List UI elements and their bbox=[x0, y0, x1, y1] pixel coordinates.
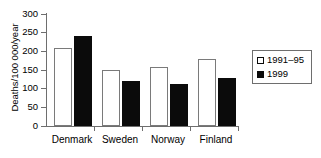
legend-item-1991-95: 1991–95 bbox=[257, 54, 307, 66]
x-axis-category-denmark: Denmark bbox=[44, 134, 100, 146]
x-axis-separator-tick-2 bbox=[142, 127, 143, 131]
bar-sweden-1999 bbox=[122, 81, 140, 126]
legend-label-1991-95: 1991–95 bbox=[267, 55, 304, 65]
bar-norway-1991-95 bbox=[150, 67, 168, 126]
bar-chart-figure: Deaths/100 000/year 300 250 200 150 100 … bbox=[0, 0, 321, 158]
y-axis-tick-250 bbox=[41, 32, 46, 33]
filled-square-swatch-icon bbox=[257, 71, 264, 78]
y-axis-label-250: 250 bbox=[0, 27, 38, 37]
x-axis-separator-tick-4 bbox=[238, 127, 239, 131]
x-axis-category-sweden: Sweden bbox=[93, 134, 147, 146]
y-axis-label-300: 300 bbox=[0, 9, 38, 19]
x-axis-category-norway: Norway bbox=[141, 134, 195, 146]
y-axis-label-100: 100 bbox=[0, 83, 38, 93]
x-axis-category-finland: Finland bbox=[189, 134, 243, 146]
chart-title-cropped bbox=[85, 0, 235, 5]
y-axis-label-50: 50 bbox=[0, 102, 38, 112]
y-axis-tick-200 bbox=[41, 51, 46, 52]
y-axis-label-150: 150 bbox=[0, 65, 38, 75]
chart-legend: 1991–95 1999 bbox=[252, 50, 312, 84]
y-axis-tick-100 bbox=[41, 88, 46, 89]
legend-label-1999: 1999 bbox=[267, 69, 288, 79]
x-axis-separator-tick-3 bbox=[190, 127, 191, 131]
open-square-swatch-icon bbox=[257, 57, 264, 64]
y-axis-line bbox=[46, 13, 47, 127]
bar-finland-1999 bbox=[218, 78, 236, 126]
y-axis-tick-300 bbox=[41, 14, 46, 15]
bar-finland-1991-95 bbox=[198, 59, 216, 126]
y-axis-tick-50 bbox=[41, 107, 46, 108]
y-axis-tick-0 bbox=[41, 126, 46, 127]
y-axis-tick-150 bbox=[41, 70, 46, 71]
bar-sweden-1991-95 bbox=[102, 70, 120, 126]
bar-denmark-1991-95 bbox=[54, 48, 72, 126]
legend-item-1999: 1999 bbox=[257, 68, 307, 80]
x-axis-separator-tick-1 bbox=[94, 127, 95, 131]
bar-denmark-1999 bbox=[74, 36, 92, 126]
y-axis-label-200: 200 bbox=[0, 46, 38, 56]
bar-norway-1999 bbox=[170, 84, 188, 126]
y-axis-label-0: 0 bbox=[0, 121, 38, 131]
